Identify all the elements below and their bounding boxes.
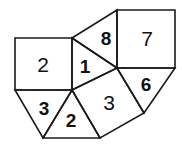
region-label-square-seven: 7 [141, 27, 153, 50]
region-label-triangle-eight: 8 [101, 28, 112, 49]
region-label-square-center: 3 [103, 91, 115, 114]
geometric-figure: 21876332 [0, 0, 182, 150]
region-label-triangle-two: 2 [66, 110, 77, 131]
region-label-triangle-three: 3 [39, 98, 50, 119]
region-label-square-left: 2 [37, 53, 49, 76]
region-label-triangle-six: 6 [141, 74, 152, 95]
figure-canvas: 21876332 [0, 0, 182, 150]
region-label-triangle-one: 1 [80, 56, 91, 77]
